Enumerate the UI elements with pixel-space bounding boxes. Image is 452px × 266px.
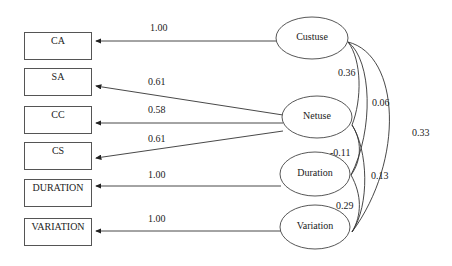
- cov-duration-variation: 0.29: [336, 200, 354, 211]
- loading-sa-value: 0.61: [148, 76, 166, 87]
- observed-label: CA: [51, 35, 65, 46]
- observed-ca-box: CA: [24, 32, 92, 60]
- loading-cc-value: 0.58: [148, 104, 166, 115]
- observed-sa-box: SA: [24, 68, 92, 96]
- cov-netuse-variation: 0.13: [371, 170, 389, 181]
- loading-ca-value: 1.00: [150, 22, 168, 33]
- observed-variation-box: VARIATION: [24, 218, 92, 246]
- observed-cs-box: CS: [24, 142, 92, 170]
- latent-netuse-label: Netuse: [282, 110, 352, 121]
- cov-custuse-variation: 0.33: [412, 127, 430, 138]
- observed-cc-box: CC: [24, 106, 92, 134]
- loading-cs-value: 0.61: [148, 133, 166, 144]
- cov-netuse-duration: -0.11: [330, 147, 350, 158]
- latent-variation-label: Variation: [280, 220, 350, 231]
- observed-duration-box: DURATION: [24, 179, 92, 207]
- latent-custuse-label: Custuse: [276, 31, 348, 42]
- observed-label: CC: [51, 109, 64, 120]
- latent-duration-label: Duration: [280, 167, 350, 178]
- observed-label: CS: [52, 145, 64, 156]
- loading-variation-value: 1.00: [148, 213, 166, 224]
- cov-custuse-duration: 0.06: [372, 97, 390, 108]
- cov-custuse-netuse: 0.36: [338, 67, 356, 78]
- observed-label: SA: [52, 71, 65, 82]
- observed-label: VARIATION: [31, 221, 84, 232]
- loading-duration-value: 1.00: [148, 169, 166, 180]
- observed-label: DURATION: [32, 182, 83, 193]
